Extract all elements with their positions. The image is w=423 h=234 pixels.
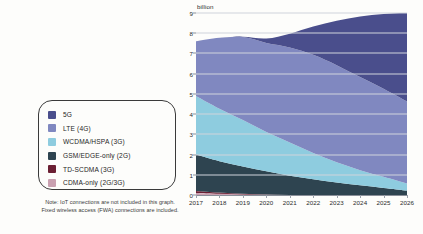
y-axis-tick-label: 3 bbox=[181, 131, 193, 138]
x-tickmark-2022 bbox=[313, 195, 314, 198]
y-tickmark-6 bbox=[193, 73, 196, 74]
y-tickmark-5 bbox=[193, 93, 196, 94]
legend-swatch-lte bbox=[48, 124, 56, 132]
legend-item-wcdma-hspa[interactable]: WCDMA/HSPA (3G) bbox=[48, 135, 175, 149]
legend-label-td-scdma: TD-SCDMA (3G) bbox=[63, 166, 114, 173]
legend-item-5g[interactable]: 5G bbox=[48, 108, 175, 122]
gridline-8 bbox=[196, 33, 407, 34]
y-tickmark-7 bbox=[193, 53, 196, 54]
x-axis-tick-label: 2025 bbox=[376, 199, 390, 206]
y-axis-tick-label: 0 bbox=[181, 192, 193, 199]
y-axis-tick-label: 6 bbox=[181, 70, 193, 77]
y-tickmark-9 bbox=[193, 13, 196, 14]
legend-swatch-td-scdma bbox=[48, 165, 56, 173]
x-axis-line bbox=[196, 195, 407, 196]
y-tickmark-3 bbox=[193, 134, 196, 135]
legend-item-cdma-only[interactable]: CDMA-only (2G/3G) bbox=[48, 176, 175, 190]
x-axis-tick-label: 2026 bbox=[400, 199, 414, 206]
gridline-5 bbox=[196, 93, 407, 94]
x-tickmark-2019 bbox=[243, 195, 244, 198]
legend-swatch-5g bbox=[48, 111, 56, 119]
x-tickmark-2018 bbox=[219, 195, 220, 198]
legend-item-gsm-edge[interactable]: GSM/EDGE-only (2G) bbox=[48, 149, 175, 163]
y-axis-tick-label: 1 bbox=[181, 171, 193, 178]
y-axis-tick-label: 4 bbox=[181, 111, 193, 118]
x-tickmark-2024 bbox=[360, 195, 361, 198]
legend-swatch-cdma-only bbox=[48, 179, 56, 187]
chart-legend: 5G LTE (4G) WCDMA/HSPA (3G) GSM/EDGE-onl… bbox=[38, 100, 176, 190]
x-axis-tick-label: 2018 bbox=[212, 199, 226, 206]
legend-item-td-scdma[interactable]: TD-SCDMA (3G) bbox=[48, 162, 175, 176]
x-axis-tick-label: 2020 bbox=[259, 199, 273, 206]
y-axis-tick-label: 2 bbox=[181, 151, 193, 158]
gridline-2 bbox=[196, 154, 407, 155]
x-axis-tick-label: 2017 bbox=[189, 199, 203, 206]
legend-label-cdma-only: CDMA-only (2G/3G) bbox=[63, 179, 125, 186]
y-tickmark-4 bbox=[193, 114, 196, 115]
gridline-4 bbox=[196, 114, 407, 115]
footnote-line-1: Note: IoT connections are not included i… bbox=[24, 199, 196, 207]
x-tickmark-2021 bbox=[290, 195, 291, 198]
y-axis-tick-label: 9 bbox=[181, 10, 193, 17]
legend-label-lte: LTE (4G) bbox=[63, 125, 91, 132]
legend-swatch-gsm-edge bbox=[48, 152, 56, 160]
plot-area: 0123456789 bbox=[196, 13, 407, 195]
legend-item-lte[interactable]: LTE (4G) bbox=[48, 122, 175, 136]
chart-footnote: Note: IoT connections are not included i… bbox=[24, 199, 196, 214]
x-tickmark-2025 bbox=[384, 195, 385, 198]
legend-label-gsm-edge: GSM/EDGE-only (2G) bbox=[63, 152, 131, 159]
gridline-1 bbox=[196, 174, 407, 175]
x-axis-tick-label: 2021 bbox=[283, 199, 297, 206]
y-tickmark-8 bbox=[193, 33, 196, 34]
x-axis-tick-label: 2022 bbox=[306, 199, 320, 206]
x-tickmark-2017 bbox=[196, 195, 197, 198]
stacked-area-series bbox=[196, 13, 407, 195]
x-axis-tick-label: 2019 bbox=[236, 199, 250, 206]
x-tickmark-2020 bbox=[266, 195, 267, 198]
gridline-6 bbox=[196, 73, 407, 74]
y-axis-tick-label: 5 bbox=[181, 90, 193, 97]
y-axis-tick-label: 7 bbox=[181, 50, 193, 57]
legend-label-5g: 5G bbox=[63, 111, 72, 118]
gridline-3 bbox=[196, 134, 407, 135]
gridline-7 bbox=[196, 53, 407, 54]
legend-label-wcdma-hspa: WCDMA/HSPA (3G) bbox=[63, 138, 125, 145]
x-axis-tick-label: 2024 bbox=[353, 199, 367, 206]
chart-container: billion 0123456789 201720182019202020212… bbox=[180, 0, 423, 234]
y-axis-tick-label: 8 bbox=[181, 30, 193, 37]
footnote-line-2: Fixed wireless access (FWA) connections … bbox=[24, 207, 196, 215]
chart-page: 5G LTE (4G) WCDMA/HSPA (3G) GSM/EDGE-onl… bbox=[0, 0, 423, 234]
x-tickmark-2023 bbox=[337, 195, 338, 198]
x-tickmark-2026 bbox=[407, 195, 408, 198]
legend-swatch-wcdma-hspa bbox=[48, 138, 56, 146]
gridline-9 bbox=[196, 13, 407, 14]
y-tickmark-1 bbox=[193, 174, 196, 175]
y-tickmark-2 bbox=[193, 154, 196, 155]
x-axis-tick-label: 2023 bbox=[330, 199, 344, 206]
y-axis-unit-label: billion bbox=[197, 3, 214, 10]
